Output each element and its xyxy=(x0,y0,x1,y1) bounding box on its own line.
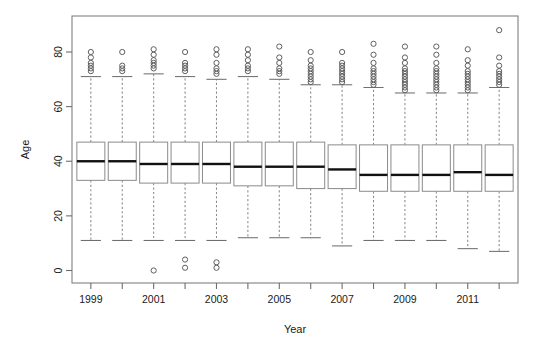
outlier-point xyxy=(371,60,376,65)
outlier-point xyxy=(277,55,282,60)
x-tick-label: 2011 xyxy=(456,293,479,305)
outlier-point xyxy=(465,47,470,52)
x-tick-label: 2007 xyxy=(330,293,354,305)
outlier-point xyxy=(497,55,502,60)
outlier-point xyxy=(434,60,439,65)
outlier-point xyxy=(308,49,313,54)
outlier-point xyxy=(402,44,407,49)
outlier-point xyxy=(182,49,187,54)
outlier-point xyxy=(120,49,125,54)
boxplot-figure: 020406080Age1999200120032005200720092011… xyxy=(0,0,539,342)
box-body xyxy=(454,145,482,191)
outlier-point xyxy=(151,268,156,273)
x-tick-label: 2009 xyxy=(393,293,417,305)
box-body xyxy=(422,145,450,191)
box-body xyxy=(485,145,513,191)
outlier-point xyxy=(214,52,219,57)
y-tick-label: 80 xyxy=(52,46,64,58)
outlier-point xyxy=(277,60,282,65)
outlier-point xyxy=(371,52,376,57)
outlier-point xyxy=(88,55,93,60)
box-body xyxy=(234,142,262,186)
chart-canvas: 020406080Age1999200120032005200720092011… xyxy=(0,0,539,342)
outlier-point xyxy=(434,44,439,49)
box-body xyxy=(171,142,199,183)
outlier-point xyxy=(371,41,376,46)
x-tick-label: 2001 xyxy=(142,293,166,305)
outlier-point xyxy=(340,49,345,54)
box-body xyxy=(328,145,356,189)
outlier-point xyxy=(245,47,250,52)
outlier-point xyxy=(245,58,250,63)
outlier-point xyxy=(214,260,219,265)
outlier-point xyxy=(151,47,156,52)
x-tick-label: 2005 xyxy=(268,293,292,305)
x-tick-label: 1999 xyxy=(79,293,103,305)
outlier-point xyxy=(402,55,407,60)
outlier-point xyxy=(245,52,250,57)
outlier-point xyxy=(182,257,187,262)
outlier-point xyxy=(214,47,219,52)
box-body xyxy=(391,145,419,191)
outlier-point xyxy=(308,58,313,63)
outlier-point xyxy=(402,60,407,65)
y-tick-label: 40 xyxy=(52,155,64,167)
x-tick-label: 2003 xyxy=(205,293,229,305)
outlier-point xyxy=(465,63,470,68)
outlier-point xyxy=(214,265,219,270)
outlier-point xyxy=(465,58,470,63)
plot-frame xyxy=(72,16,518,283)
outlier-point xyxy=(277,44,282,49)
y-tick-label: 0 xyxy=(52,267,64,273)
box-body xyxy=(297,142,325,188)
box-body xyxy=(360,145,388,191)
x-axis-title: Year xyxy=(284,323,307,335)
outlier-point xyxy=(497,28,502,33)
outlier-point xyxy=(497,63,502,68)
box-body xyxy=(140,142,168,183)
outlier-point xyxy=(434,52,439,57)
y-tick-label: 20 xyxy=(52,210,64,222)
outlier-point xyxy=(88,49,93,54)
y-tick-label: 60 xyxy=(52,101,64,113)
box-body xyxy=(202,142,230,183)
box-body xyxy=(265,142,293,186)
outlier-point xyxy=(151,52,156,57)
outlier-point xyxy=(182,265,187,270)
y-axis-title: Age xyxy=(19,140,31,160)
outlier-point xyxy=(214,60,219,65)
